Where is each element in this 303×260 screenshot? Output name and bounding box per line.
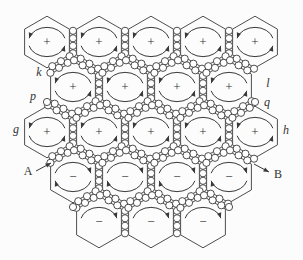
grain-circle [138, 150, 145, 157]
annotation-label-B: B [274, 167, 282, 181]
grain-circle [75, 198, 82, 205]
grain-circle [77, 145, 84, 152]
grain-circle [135, 193, 142, 200]
grain-circle [55, 154, 62, 161]
grain-circle [127, 198, 134, 205]
grain-circle [101, 63, 108, 70]
grain-circle [105, 197, 112, 204]
grain-circle [225, 42, 232, 49]
vortex-sign: + [43, 34, 50, 49]
grain-circle [231, 108, 238, 115]
grain-circle [207, 100, 214, 107]
grain-circle [200, 102, 207, 109]
grain-circle [148, 102, 155, 109]
grain-circle [53, 107, 60, 114]
edge-label-k: k [36, 65, 42, 79]
grain-circle [83, 193, 90, 200]
grain-circle [166, 112, 173, 119]
grain-circle [109, 58, 116, 65]
grain-circle [109, 148, 116, 155]
vortex-sign: − [225, 169, 232, 184]
grain-circle [148, 192, 155, 199]
grain-circle [95, 177, 102, 184]
grain-circle [192, 67, 199, 74]
grain-circle [49, 153, 56, 160]
grain-circle [43, 98, 50, 105]
grain-circle [216, 195, 223, 202]
grain-circle [246, 104, 253, 111]
grain-circle [96, 102, 103, 109]
grain-circle [213, 58, 220, 65]
grain-circle [179, 198, 186, 205]
edge-label-q: q [264, 95, 270, 109]
grain-circle [49, 63, 56, 70]
grain-circle [81, 199, 88, 206]
honeycomb-vortex-diagram: ++++++++++++++−−−−−−−kplqghAB [0, 0, 303, 260]
grain-circle [173, 125, 180, 132]
edge-label-h: h [283, 123, 289, 137]
grain-circle [129, 145, 136, 152]
grain-circle [86, 60, 93, 67]
grain-circle [205, 153, 212, 160]
grain-circle [138, 60, 145, 67]
vortex-sign: + [95, 34, 102, 49]
grain-circle [251, 98, 258, 105]
vortex-sign: + [147, 34, 154, 49]
grain-circle [69, 203, 76, 210]
vortex-sign: + [121, 79, 128, 94]
grain-circle [185, 199, 192, 206]
grain-circle [121, 125, 128, 132]
grain-circle [125, 114, 132, 121]
grain-circle [69, 27, 76, 34]
grain-circle [225, 132, 232, 139]
grain-circle [199, 177, 206, 184]
grain-circle [205, 63, 212, 70]
grain-circle [81, 109, 88, 116]
grain-circle [226, 147, 233, 154]
vortex-sign: − [69, 169, 76, 184]
edge-label-g: g [13, 122, 19, 136]
grain-circle [173, 222, 180, 229]
vortex-sign: − [147, 214, 154, 229]
grain-circle [244, 157, 251, 164]
grain-circle [164, 195, 171, 202]
grain-circle [69, 35, 76, 42]
grain-circle [213, 148, 220, 155]
grain-circle [121, 42, 128, 49]
grain-circle [161, 58, 168, 65]
grain-circle [147, 177, 154, 184]
grain-circle [69, 125, 76, 132]
grain-circle [161, 148, 168, 155]
grain-circle [229, 114, 236, 121]
grain-circle [235, 62, 242, 69]
grain-circle [216, 105, 223, 112]
grain-circle [121, 27, 128, 34]
grain-circle [207, 190, 214, 197]
grain-circle [107, 64, 114, 71]
grain-circle [99, 159, 106, 166]
grain-circle [211, 64, 218, 71]
grain-circle [57, 58, 64, 65]
grain-circle [225, 125, 232, 132]
grain-circle [187, 193, 194, 200]
grain-circle [250, 155, 257, 162]
grain-circle [211, 154, 218, 161]
grain-circle [96, 192, 103, 199]
grain-circle [200, 192, 207, 199]
grain-circle [77, 55, 84, 62]
grain-circle [114, 112, 121, 119]
annotation-label-A: A [24, 164, 33, 178]
grain-circle [107, 154, 114, 161]
grain-circle [70, 147, 77, 154]
vortex-sign: + [251, 34, 258, 49]
grain-circle [112, 105, 119, 112]
grain-circle [225, 27, 232, 34]
grain-circle [57, 148, 64, 155]
grain-circle [250, 65, 257, 72]
grain-circle [155, 100, 162, 107]
grain-circle [190, 60, 197, 67]
grain-circle [199, 87, 206, 94]
grain-circle [129, 55, 136, 62]
grain-circle [203, 159, 210, 166]
grain-circle [140, 157, 147, 164]
